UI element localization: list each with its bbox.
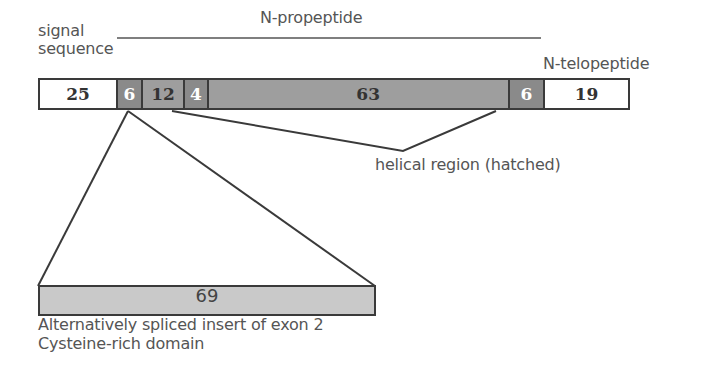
helical-pointer (172, 111, 496, 151)
insert-value: 69 (40, 285, 374, 306)
segment-signal-25: 25 (40, 80, 118, 108)
insert-label-1: Alternatively spliced insert of exon 2 (38, 316, 323, 334)
helical-region-label: helical region (hatched) (375, 156, 561, 174)
segment-value: 6 (124, 84, 136, 104)
n-telopeptide-label: N-telopeptide (543, 55, 649, 73)
segment-value: 4 (190, 84, 202, 104)
n-propeptide-label: N-propeptide (260, 9, 362, 27)
expansion-line-right (128, 111, 375, 286)
segment-value: 6 (521, 84, 533, 104)
segment-value: 12 (151, 84, 175, 104)
segment-value: 19 (575, 84, 599, 104)
segment-6a: 6 (118, 80, 143, 108)
segment-value: 63 (356, 84, 380, 104)
signal-sequence-label-2: sequence (38, 40, 114, 58)
segment-6b: 6 (510, 80, 545, 108)
segment-telopeptide-19: 19 (545, 80, 628, 108)
insert-label-2: Cysteine-rich domain (38, 335, 204, 353)
signal-sequence-label-1: signal (38, 22, 84, 40)
segment-63: 63 (209, 80, 510, 108)
segment-value: 25 (66, 84, 90, 104)
segment-4: 4 (185, 80, 209, 108)
domain-bar: 25 6 12 4 63 6 19 (38, 78, 630, 110)
exon2-insert-bar: 69 (38, 285, 376, 316)
expansion-line-left (38, 111, 128, 286)
segment-12: 12 (143, 80, 185, 108)
